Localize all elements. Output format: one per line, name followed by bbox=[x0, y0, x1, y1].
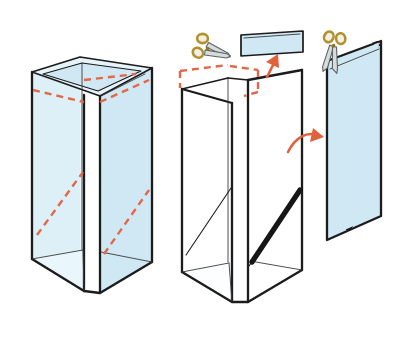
scissors-left-handle-upper bbox=[197, 34, 208, 43]
scissors-right-handle-left bbox=[322, 30, 335, 44]
scissors-right-handle-right bbox=[335, 32, 346, 44]
box2-strip-dashed-outline-top bbox=[180, 65, 228, 71]
box2-inner-left-wall bbox=[182, 78, 228, 272]
arrow-to-panel-head bbox=[310, 128, 324, 142]
craft-instruction-diagram: Cutting a tall rectangular box into a fl… bbox=[0, 0, 403, 354]
box2-top-edge-notch bbox=[228, 78, 248, 80]
box2-strip-dashed-outline-notch-top bbox=[230, 66, 258, 70]
scissors-left-handle-lower bbox=[191, 46, 205, 60]
step-1-tall-box-with-cut-guides bbox=[32, 57, 152, 293]
removed-top-strip bbox=[241, 31, 303, 56]
illustration-canvas: Cutting a tall rectangular box into a fl… bbox=[0, 0, 403, 354]
box2-right-face bbox=[248, 70, 302, 302]
box1-right-face bbox=[100, 68, 152, 293]
step-2-box-with-top-strip-removed bbox=[182, 70, 302, 302]
scissors-icon bbox=[190, 31, 235, 69]
box2-front-corner-slab bbox=[232, 102, 248, 302]
box1-front-corner-slab bbox=[84, 95, 100, 293]
